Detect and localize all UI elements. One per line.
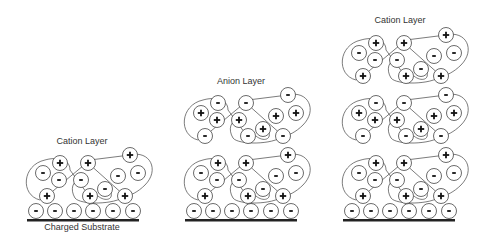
anion-ion	[36, 166, 51, 181]
cation-ion	[427, 109, 442, 124]
cation-ion	[390, 113, 405, 128]
anion-ion	[289, 166, 304, 181]
cation-ion	[439, 28, 454, 43]
substrate-bar	[343, 219, 455, 222]
cation-ion	[241, 189, 256, 204]
panel-1-cation-layer-1	[26, 148, 152, 204]
panel-3-cation-layer-label: Cation Layer	[374, 15, 425, 25]
substrate-anion	[187, 204, 202, 219]
substrate-anion	[422, 204, 437, 219]
anion-ion	[74, 173, 89, 188]
anion-ion	[397, 96, 412, 111]
substrate-ions	[345, 204, 457, 219]
anion-ion	[256, 182, 271, 197]
cation-ion	[211, 156, 226, 171]
substrate-anion	[225, 204, 240, 219]
substrate-bar	[185, 219, 297, 222]
panel-1-cation-layer-label: Cation Layer	[56, 136, 107, 146]
anion-ion	[111, 169, 126, 184]
cation-ion	[434, 69, 449, 84]
cation-ion	[356, 189, 371, 204]
cation-ion	[369, 36, 384, 51]
substrate-anion	[345, 204, 360, 219]
anion-ion	[276, 129, 291, 144]
anion-ion	[352, 166, 367, 181]
substrate-anion	[106, 204, 121, 219]
anion-ion	[434, 129, 449, 144]
anion-ion	[239, 96, 254, 111]
substrate-anion	[284, 204, 299, 219]
anion-ion	[232, 173, 247, 188]
cation-ion	[269, 109, 284, 124]
substrate-anion	[29, 204, 44, 219]
anion-ion	[131, 166, 146, 181]
anion-ion	[414, 62, 429, 77]
substrate-ions	[29, 204, 141, 219]
substrate-anion	[126, 204, 141, 219]
anion-ion	[281, 88, 296, 103]
substrate-anion	[244, 204, 259, 219]
anion-ion	[52, 173, 67, 188]
substrate-anion	[86, 204, 101, 219]
panel-2-cation-layer-1	[184, 148, 310, 204]
cation-ion	[439, 148, 454, 163]
cation-ion	[397, 36, 412, 51]
anion-ion	[427, 169, 442, 184]
cation-ion	[356, 69, 371, 84]
panel-3-anion-layer-2	[342, 88, 468, 144]
cation-ion	[397, 156, 412, 171]
cation-ion	[414, 122, 429, 137]
cation-ion	[352, 106, 367, 121]
cation-ion	[281, 148, 296, 163]
anion-ion	[241, 129, 256, 144]
cation-ion	[399, 189, 414, 204]
cation-ion	[198, 189, 213, 204]
anion-ion	[427, 49, 442, 64]
panel-3-cation-layer-1	[342, 148, 468, 204]
cation-ion	[232, 113, 247, 128]
anion-ion	[368, 53, 383, 68]
cation-ion	[399, 69, 414, 84]
cation-ion	[81, 156, 96, 171]
substrate-anion	[48, 204, 63, 219]
cation-ion	[256, 122, 271, 137]
cation-ion	[434, 189, 449, 204]
cation-ion	[239, 156, 254, 171]
cation-ion	[210, 113, 225, 128]
substrate-anion	[264, 204, 279, 219]
anion-ion	[369, 96, 384, 111]
substrate-ions	[187, 204, 299, 219]
panel-2-anion-layer-2	[184, 88, 310, 144]
anion-ion	[447, 166, 462, 181]
panel-3-cation-layer-3	[342, 28, 468, 84]
cation-ion	[368, 113, 383, 128]
cation-ion	[40, 189, 55, 204]
anion-ion	[98, 182, 113, 197]
multilayer-diagram	[0, 0, 497, 243]
anion-ion	[352, 46, 367, 61]
anion-ion	[447, 46, 462, 61]
anion-ion	[399, 129, 414, 144]
anion-ion	[194, 166, 209, 181]
substrate-anion	[206, 204, 221, 219]
substrate-anion	[442, 204, 457, 219]
anion-ion	[210, 173, 225, 188]
anion-ion	[439, 88, 454, 103]
cation-ion	[447, 106, 462, 121]
cation-ion	[194, 106, 209, 121]
anion-ion	[198, 129, 213, 144]
substrate-anion	[383, 204, 398, 219]
substrate-anion	[364, 204, 379, 219]
cation-ion	[123, 148, 138, 163]
cation-ion	[83, 189, 98, 204]
anion-ion	[414, 182, 429, 197]
charged-substrate-label: Charged Substrate	[44, 222, 120, 232]
cation-ion	[289, 106, 304, 121]
cation-ion	[276, 189, 291, 204]
anion-ion	[390, 173, 405, 188]
anion-ion	[390, 53, 405, 68]
anion-ion	[368, 173, 383, 188]
substrate-anion	[402, 204, 417, 219]
anion-ion	[356, 129, 371, 144]
anion-ion	[269, 169, 284, 184]
